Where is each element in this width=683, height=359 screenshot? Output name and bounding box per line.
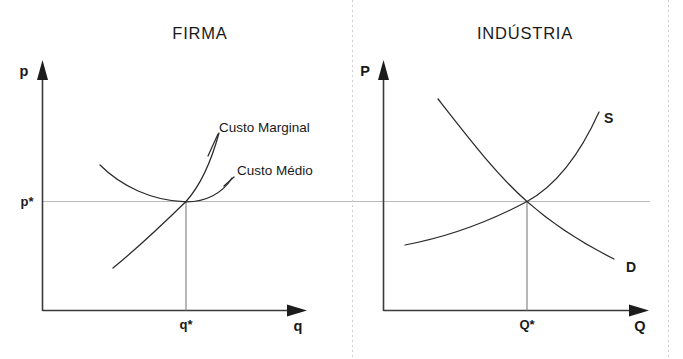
price-tick-label-firma: p* [21,194,35,209]
quantity-tick-label-firma: q* [180,317,194,332]
panel-firma: FIRMA p q p* q* Custo Marginal Custo Méd… [20,24,313,334]
supply-curve [405,112,599,245]
quantity-tick-label-industria: Q* [519,317,535,332]
panel-title-firma: FIRMA [172,24,227,42]
y-axis-arrow-firma [37,60,48,80]
economics-figure: FIRMA p q p* q* Custo Marginal Custo Méd… [0,0,683,359]
supply-curve-label: S [604,110,613,126]
x-axis-label-firma: q [294,318,303,334]
marginal-cost-curve [113,133,219,268]
y-axis-arrow-industria [378,60,389,80]
average-cost-curve [100,165,232,202]
x-axis-arrow-industria [629,305,649,317]
demand-curve [438,99,614,259]
y-axis-label-firma: p [20,63,29,79]
diagram-canvas: FIRMA p q p* q* Custo Marginal Custo Méd… [0,0,683,359]
average-cost-label: Custo Médio [237,163,313,178]
panel-title-industria: INDÚSTRIA [477,24,573,42]
x-axis-arrow-firma [287,305,307,317]
demand-curve-label: D [626,259,636,275]
average-cost-leader-line [224,177,234,186]
y-axis-label-industria: P [360,63,370,79]
marginal-cost-label: Custo Marginal [219,120,310,135]
panel-industria: INDÚSTRIA P Q Q* S D [360,24,649,334]
x-axis-label-industria: Q [634,318,645,334]
